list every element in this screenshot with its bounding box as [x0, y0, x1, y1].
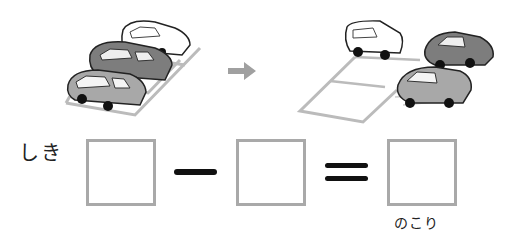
answer-box-result[interactable] — [387, 139, 457, 206]
answer-box-subtrahend[interactable] — [236, 139, 306, 206]
right-arrow-icon — [228, 62, 258, 80]
equals-sign-top — [325, 163, 368, 168]
parking-before-illustration — [60, 0, 210, 120]
equals-sign-bottom — [325, 176, 368, 181]
result-caption: のこり — [394, 212, 439, 232]
equation-label: しき — [19, 137, 63, 166]
parking-after-illustration — [285, 15, 505, 125]
answer-box-minuend[interactable] — [86, 139, 156, 206]
light-gray-car-icon — [398, 67, 472, 108]
dark-gray-car-icon — [425, 32, 494, 70]
white-car-icon — [346, 21, 403, 60]
minus-sign — [174, 169, 217, 175]
